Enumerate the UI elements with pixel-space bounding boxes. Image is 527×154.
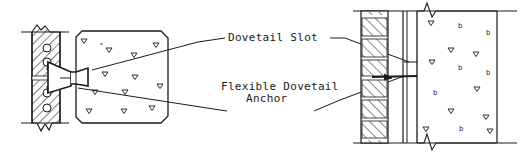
- dovetail-slot-label: Dovetail Slot: [228, 32, 318, 44]
- svg-text:b: b: [458, 64, 463, 72]
- svg-text:b: b: [486, 29, 491, 37]
- flexible-anchor-label-line2: Anchor: [246, 93, 288, 105]
- svg-text:b: b: [459, 125, 464, 133]
- flexible-dovetail-anchor: [47, 62, 71, 93]
- svg-text:b: b: [486, 69, 491, 77]
- construction-detail-diagram: b b b b b b: [0, 0, 527, 154]
- svg-text:b: b: [458, 22, 463, 30]
- elevation-section-view: b b b b b b: [353, 3, 517, 150]
- dovetail-slot: [71, 68, 88, 86]
- concrete-column: [76, 31, 168, 123]
- svg-text:b: b: [433, 89, 438, 97]
- plan-section-view: [21, 25, 168, 131]
- concrete-wall: b b b b b b: [417, 3, 497, 150]
